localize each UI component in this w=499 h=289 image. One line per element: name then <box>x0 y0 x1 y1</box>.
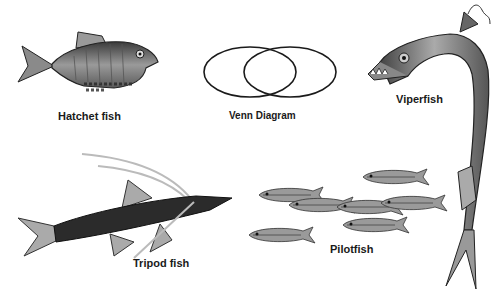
label-tripod-fish: Tripod fish <box>133 257 189 269</box>
label-hatchet-fish: Hatchet fish <box>58 110 121 122</box>
label-viperfish: Viperfish <box>396 93 443 105</box>
label-venn-diagram: Venn Diagram <box>229 110 296 121</box>
venn-circle-left <box>204 47 296 97</box>
label-pilotfish: Pilotfish <box>330 243 373 255</box>
venn-diagram <box>200 44 340 100</box>
venn-circle-right <box>244 47 336 97</box>
hatchet-fish-illustration <box>14 28 164 98</box>
pilotfish-illustration <box>245 165 450 255</box>
tripod-fish-illustration <box>10 150 235 260</box>
